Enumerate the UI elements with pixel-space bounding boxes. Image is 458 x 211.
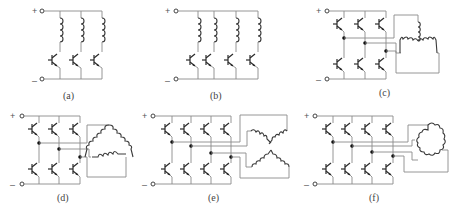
negative-terminal [313,182,317,186]
negative-terminal [174,77,178,81]
panel-f: + – (f [304,111,448,204]
positive-terminal [20,114,24,118]
panel-b: + – (b) [165,6,261,102]
svg-text:–: – [142,180,147,190]
negative-terminal [325,77,329,81]
panel-d: + – (d) [10,111,133,204]
positive-terminal [325,9,329,13]
svg-text:–: – [10,180,15,190]
phase-branch [48,11,63,79]
star-winding [400,22,437,53]
panel-e: + – [142,111,289,204]
svg-text:+: + [10,111,15,121]
svg-text:–: – [304,180,309,190]
svg-text:+: + [316,6,321,16]
negative-terminal-sign: – [32,76,37,86]
motor-drive-circuits-figure: + – (a) + – (b) + [0,0,458,211]
positive-terminal [313,114,317,118]
svg-text:–: – [165,76,170,86]
panel-label: (e) [208,192,219,204]
positive-terminal [151,114,155,118]
svg-text:–: – [316,75,321,85]
positive-terminal [40,9,44,13]
svg-text:+: + [304,111,309,121]
x-star-winding [251,130,289,167]
positive-terminal [174,9,178,13]
ring-winding [417,123,446,155]
svg-text:+: + [142,111,147,121]
panel-label: (a) [63,90,74,102]
delta-winding [85,125,133,157]
negative-terminal [40,77,44,81]
phase-branch [90,11,105,79]
positive-terminal-sign: + [32,6,37,16]
negative-terminal [151,182,155,186]
panel-label: (d) [57,192,69,204]
panel-label: (b) [210,90,222,102]
panel-c: + – (c) [316,6,439,99]
svg-text:+: + [165,6,170,16]
negative-terminal [20,182,24,186]
panel-label: (c) [379,87,390,99]
panel-label: (f) [369,192,379,204]
panel-a: + – (a) [32,6,105,102]
phase-branch [69,11,84,79]
